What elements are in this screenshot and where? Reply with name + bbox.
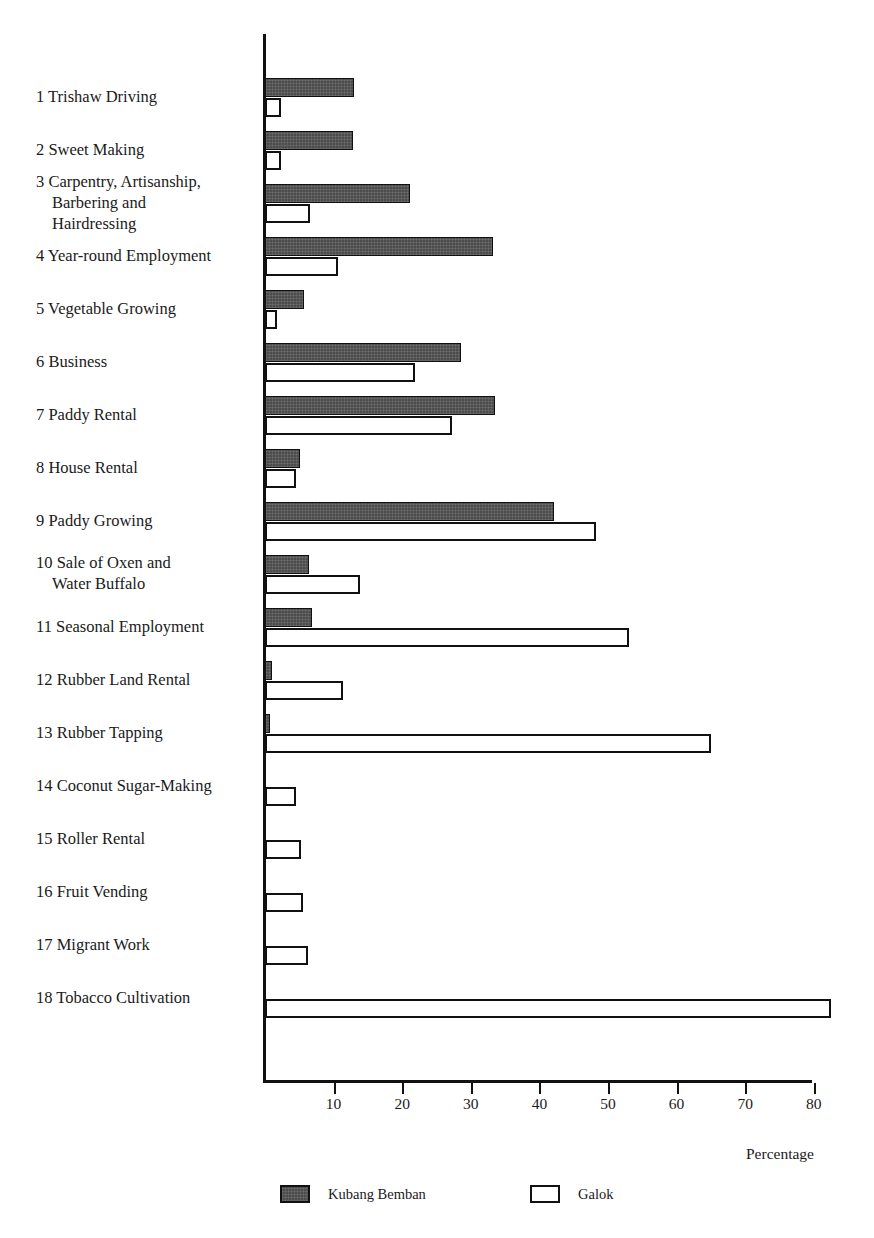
x-axis-tick-label: 50 (600, 1095, 616, 1113)
bar-kubang-bemban (265, 184, 410, 203)
x-axis-tick (471, 1083, 473, 1094)
x-axis-tick (334, 1083, 336, 1094)
bar-galok (265, 787, 296, 806)
legend-swatch-light (530, 1185, 560, 1203)
category-label: 3 Carpentry, Artisanship,Barbering andHa… (36, 171, 258, 234)
bar-kubang-bemban (265, 78, 354, 97)
bar-galok (265, 575, 360, 594)
chart-legend: Kubang BembanGalok (0, 1185, 874, 1215)
category-label: 12 Rubber Land Rental (36, 669, 258, 690)
category-label: 2 Sweet Making (36, 139, 258, 160)
bar-galok (265, 310, 277, 329)
x-axis-tick (677, 1083, 679, 1094)
x-axis-tick (402, 1083, 404, 1094)
bar-galok (265, 681, 343, 700)
bar-galok (265, 469, 296, 488)
x-axis-tick-label: 70 (737, 1095, 753, 1113)
bar-kubang-bemban (265, 290, 304, 309)
category-label: 6 Business (36, 351, 258, 372)
bar-kubang-bemban (265, 661, 272, 680)
category-label: 15 Roller Rental (36, 828, 258, 849)
x-axis-tick-label: 80 (806, 1095, 822, 1113)
category-label: 4 Year-round Employment (36, 245, 258, 266)
category-label: 13 Rubber Tapping (36, 722, 258, 743)
category-label: 11 Seasonal Employment (36, 616, 258, 637)
x-axis-tick-label: 20 (394, 1095, 410, 1113)
bar-galok (265, 522, 596, 541)
bar-galok (265, 416, 452, 435)
category-label: 8 House Rental (36, 457, 258, 478)
bar-kubang-bemban (265, 714, 270, 733)
legend-swatch-dark (280, 1185, 310, 1203)
bar-kubang-bemban (265, 608, 312, 627)
bar-galok (265, 98, 281, 117)
category-label: 18 Tobacco Cultivation (36, 987, 258, 1008)
bar-kubang-bemban (265, 237, 493, 256)
bar-chart: 1020304050607080 1 Trishaw Driving2 Swee… (0, 0, 874, 1238)
x-axis-tick-label: 60 (669, 1095, 685, 1113)
x-axis-tick (814, 1083, 816, 1094)
category-label: 10 Sale of Oxen andWater Buffalo (36, 552, 258, 594)
legend-label: Galok (578, 1186, 613, 1203)
bar-galok (265, 151, 281, 170)
category-label: 16 Fruit Vending (36, 881, 258, 902)
category-label: 17 Migrant Work (36, 934, 258, 955)
x-axis-line (263, 1080, 812, 1083)
bar-galok (265, 840, 301, 859)
x-axis-tick-label: 40 (532, 1095, 548, 1113)
x-axis-tick-label: 30 (463, 1095, 479, 1113)
bar-galok (265, 628, 629, 647)
bar-kubang-bemban (265, 396, 495, 415)
x-axis-tick (745, 1083, 747, 1094)
bar-kubang-bemban (265, 131, 353, 150)
x-axis-tick-label: 10 (326, 1095, 342, 1113)
bar-galok (265, 999, 831, 1018)
bar-galok (265, 204, 310, 223)
bar-kubang-bemban (265, 343, 461, 362)
bar-kubang-bemban (265, 449, 300, 468)
bar-galok (265, 734, 711, 753)
bar-galok (265, 257, 338, 276)
bar-kubang-bemban (265, 502, 554, 521)
legend-label: Kubang Bemban (328, 1186, 426, 1203)
legend-item[interactable]: Galok (530, 1185, 613, 1203)
category-label: 14 Coconut Sugar-Making (36, 775, 258, 796)
category-label: 1 Trishaw Driving (36, 86, 258, 107)
legend-item[interactable]: Kubang Bemban (280, 1185, 426, 1203)
bar-galok (265, 946, 308, 965)
x-axis-caption: Percentage (746, 1145, 814, 1163)
bar-galok (265, 893, 303, 912)
bar-galok (265, 363, 415, 382)
x-axis-tick (539, 1083, 541, 1094)
category-label: 9 Paddy Growing (36, 510, 258, 531)
bar-kubang-bemban (265, 555, 309, 574)
x-axis-tick (608, 1083, 610, 1094)
category-label: 7 Paddy Rental (36, 404, 258, 425)
category-label: 5 Vegetable Growing (36, 298, 258, 319)
